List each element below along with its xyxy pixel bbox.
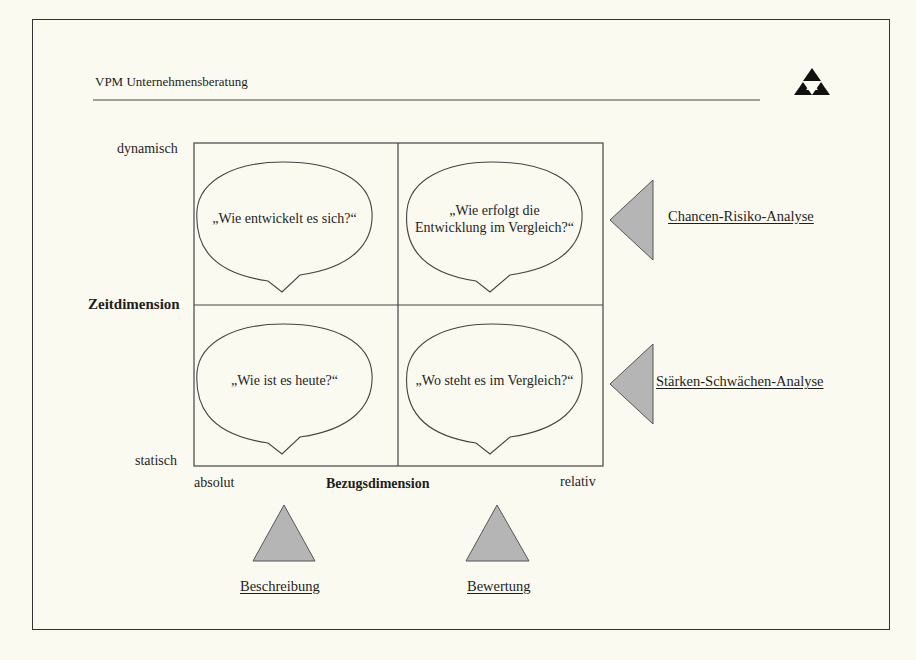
triangle-up-arrow-right <box>466 505 529 561</box>
x-axis-right-label: relativ <box>560 474 596 490</box>
speech-bubble-top-left <box>197 162 372 292</box>
y-axis-top-label: dynamisch <box>117 141 178 157</box>
chancen-risiko-analyse-link[interactable]: Chancen-Risiko-Analyse <box>668 208 814 225</box>
pyramid-logo-icon <box>794 68 830 95</box>
question-top-right-line2: Entwicklung im Vergleich?“ <box>407 219 582 236</box>
header-title: VPM Unternehmensberatung <box>95 74 248 90</box>
question-top-left: „Wie entwickelt es sich?“ <box>197 210 372 227</box>
beschreibung-link[interactable]: Beschreibung <box>240 578 320 595</box>
question-bottom-right: „Wo steht es im Vergleich?“ <box>407 372 582 389</box>
question-top-right: „Wie erfolgt die Entwicklung im Vergleic… <box>407 202 582 236</box>
y-axis-bottom-label: statisch <box>135 453 177 469</box>
x-axis-left-label: absolut <box>194 475 234 491</box>
question-top-right-line1: „Wie erfolgt die <box>407 202 582 219</box>
x-axis-label: Bezugsdimension <box>326 476 429 492</box>
triangle-left-arrow-bottom <box>610 344 653 424</box>
y-axis-label: Zeitdimension <box>88 296 180 313</box>
question-bottom-left: „Wie ist es heute?“ <box>197 372 372 389</box>
speech-bubble-bottom-right <box>407 324 583 454</box>
bewertung-link[interactable]: Bewertung <box>467 578 531 595</box>
diagram-shapes <box>0 0 916 660</box>
triangle-up-arrow-left <box>253 505 315 561</box>
triangle-left-arrow-top <box>610 180 653 260</box>
speech-bubble-bottom-left <box>197 324 372 454</box>
staerken-schwaechen-analyse-link[interactable]: Stärken-Schwächen-Analyse <box>656 373 824 390</box>
